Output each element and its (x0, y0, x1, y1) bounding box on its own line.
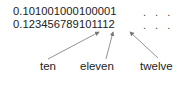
label-twelve: twelve (140, 60, 173, 72)
arrow-eleven (106, 32, 113, 59)
label-ten: ten (40, 60, 56, 72)
arrows (0, 0, 196, 85)
arrow-twelve (130, 32, 158, 58)
label-eleven: eleven (80, 60, 114, 72)
arrow-ten (48, 32, 99, 59)
